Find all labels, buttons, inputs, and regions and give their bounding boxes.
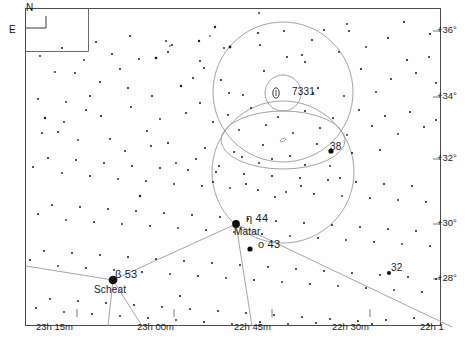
star-point [180,85,182,87]
dec-label-32: +32° [437,152,457,163]
star-point [309,283,311,285]
star-point [39,55,41,57]
star-point [198,40,200,42]
star-point [91,313,93,315]
star-point [199,102,201,104]
dec-label-30: +30° [437,217,457,228]
star-point [149,225,151,227]
star-point [346,23,348,25]
star-point [319,127,321,129]
star-point [425,201,427,203]
star-point [192,77,194,79]
star-point [183,260,185,262]
star-point [127,87,129,89]
dec-label-36: +36° [437,24,457,35]
ra-label-22h45m: 22h 45m [234,321,271,332]
chart-canvas [0,0,466,338]
star-point [119,68,121,70]
star-point [327,179,329,181]
star-point [37,213,39,215]
star-point [287,323,289,325]
star-point [371,125,373,127]
ra-ticks [77,309,370,317]
star-point [300,185,302,187]
star-point [212,181,214,183]
star-point [285,191,287,193]
star-point [409,111,411,113]
star-point [360,68,362,70]
star-point [44,117,46,119]
star-point [401,243,403,245]
star-point [127,256,129,258]
star-point [99,81,101,83]
star-point [250,107,252,109]
star-point [89,95,91,97]
label-ngc-7331: 7331 [292,86,315,97]
star-point [100,115,102,117]
star-point [83,59,85,61]
compass-box [26,9,89,52]
star-point [345,239,347,241]
star-point [289,155,291,157]
star-point [274,196,276,198]
star-point [375,91,377,93]
star-point [317,237,319,239]
star-point [355,181,357,183]
star-point [109,138,111,140]
star-point [171,44,173,46]
star-point [315,322,317,324]
star-point [147,317,149,319]
star-point [245,183,247,185]
star-point [37,98,39,100]
star-point [231,323,233,325]
star-point [348,30,350,32]
star-point [316,143,318,145]
star-point [397,133,399,135]
chart-border [26,9,441,326]
star-point [277,116,279,118]
star-point [406,59,408,61]
star-point [195,158,197,160]
star-point [201,185,203,187]
label-star-matar: Matar [234,226,261,237]
star-point [93,221,95,223]
star-point [211,262,213,264]
star-point [229,46,232,49]
star-point [197,275,199,277]
ra-label-23h15m: 23h 15m [36,321,73,332]
star-point [138,58,140,60]
star-point [304,110,306,112]
star-point [189,308,191,310]
star-point [351,152,353,154]
star-point [54,71,56,73]
star-point [150,145,152,147]
star-point [351,272,353,274]
dec-label-34: +34° [437,90,457,101]
star-point [379,149,381,151]
star-point [271,158,273,160]
star-point [258,162,260,164]
label-star-scheat: Scheat [94,284,126,295]
star-point [397,199,399,201]
star-point [79,206,81,208]
star-point [317,87,319,89]
star-point [47,157,49,159]
star-point [228,92,230,94]
star-point [169,273,171,275]
star-marker-omicron43 [247,246,252,251]
label-star-32: 32 [391,262,403,273]
star-point [338,51,340,53]
star-point [43,250,45,252]
star-point [313,193,315,195]
star-point [267,266,269,268]
star-point [259,44,261,46]
star-point [89,175,91,177]
star-point [257,189,259,191]
star-point [57,131,59,133]
star-point [105,302,107,304]
star-point [371,323,373,325]
star-point [329,165,331,167]
star-chart: N E 7331 38 η 44 Matar ο 43 β 53 Scheat … [0,0,466,338]
star-point [365,46,367,48]
star-point [167,51,169,53]
